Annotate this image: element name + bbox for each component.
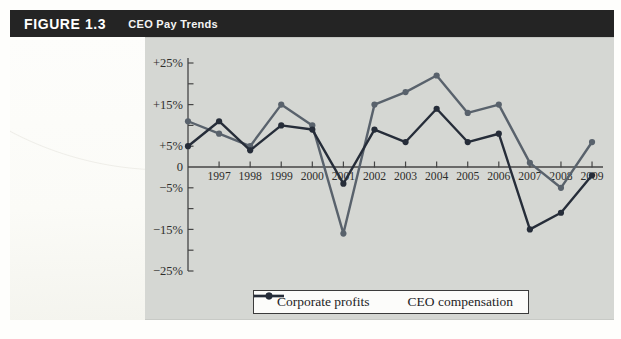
chart-panel: +25%+15%+5%0−5%−15%−25%19971998199920002… — [145, 37, 614, 320]
figure-body: +25%+15%+5%0−5%−15%−25%19971998199920002… — [10, 37, 614, 320]
svg-text:+5%: +5% — [159, 139, 183, 153]
svg-text:+25%: +25% — [153, 56, 183, 70]
svg-text:2000: 2000 — [301, 170, 324, 183]
chart-legend: Corporate profits CEO compensation — [253, 290, 529, 314]
page: FIGURE 1.3 CEO Pay Trends +25%+15%+5%0−5… — [0, 0, 621, 339]
legend-label-ceo-compensation: CEO compensation — [408, 294, 513, 310]
line-chart: +25%+15%+5%0−5%−15%−25%19971998199920002… — [145, 37, 614, 320]
page-margin-decoration — [10, 37, 145, 320]
svg-text:+15%: +15% — [153, 98, 183, 112]
svg-text:2006: 2006 — [487, 170, 510, 183]
figure-header: FIGURE 1.3 CEO Pay Trends — [10, 10, 614, 37]
svg-text:2007: 2007 — [518, 170, 541, 183]
figure-title: CEO Pay Trends — [128, 18, 218, 30]
svg-text:2005: 2005 — [456, 170, 479, 183]
svg-text:2004: 2004 — [425, 170, 448, 183]
svg-text:1998: 1998 — [239, 170, 262, 183]
svg-text:1999: 1999 — [270, 170, 293, 183]
svg-text:2002: 2002 — [363, 170, 386, 183]
svg-text:1997: 1997 — [207, 170, 230, 183]
svg-text:−25%: −25% — [153, 264, 183, 278]
svg-text:−15%: −15% — [153, 223, 183, 237]
legend-item-corporate-profits: Corporate profits — [269, 294, 370, 310]
svg-text:2003: 2003 — [394, 170, 417, 183]
svg-text:−5%: −5% — [159, 181, 183, 195]
legend-item-ceo-compensation: CEO compensation — [400, 294, 513, 310]
figure-label: FIGURE 1.3 — [24, 16, 106, 32]
svg-text:0: 0 — [177, 160, 183, 174]
legend-label-corporate-profits: Corporate profits — [277, 294, 370, 310]
